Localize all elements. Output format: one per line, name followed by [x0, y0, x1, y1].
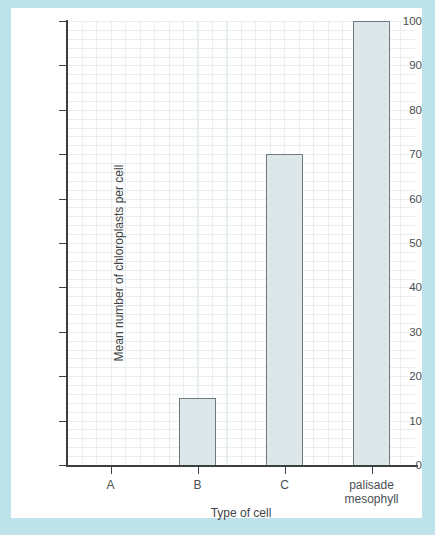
y-tick: [59, 21, 66, 22]
x-tick-label: palisade mesophyll: [327, 478, 417, 506]
bar: [353, 21, 390, 465]
x-tick-label: C: [240, 478, 330, 492]
y-tick: [59, 376, 66, 377]
y-tick: [59, 465, 66, 466]
chart-card: 0102030405060708090100 ABCpalisade mesop…: [11, 8, 422, 518]
y-tick: [59, 154, 66, 155]
x-tick-label: B: [153, 478, 243, 492]
y-tick: [59, 421, 66, 422]
bar-chart: 0102030405060708090100 ABCpalisade mesop…: [11, 8, 422, 518]
x-tick: [198, 467, 199, 474]
y-tick: [59, 332, 66, 333]
x-axis-line: [66, 465, 418, 467]
x-tick: [372, 467, 373, 474]
y-axis-line: [66, 20, 68, 467]
bar: [266, 154, 303, 465]
y-tick: [59, 243, 66, 244]
x-tick: [111, 467, 112, 474]
x-axis-title: Type of cell: [67, 506, 415, 520]
chart-screenshot: 0102030405060708090100 ABCpalisade mesop…: [0, 0, 435, 535]
x-tick: [285, 467, 286, 474]
y-axis-title: Mean number of chloroplasts per cell: [112, 165, 126, 362]
y-tick: [59, 199, 66, 200]
y-tick: [59, 65, 66, 66]
x-tick-label: A: [66, 478, 156, 492]
y-tick: [59, 287, 66, 288]
bar: [179, 398, 216, 465]
y-tick: [59, 110, 66, 111]
